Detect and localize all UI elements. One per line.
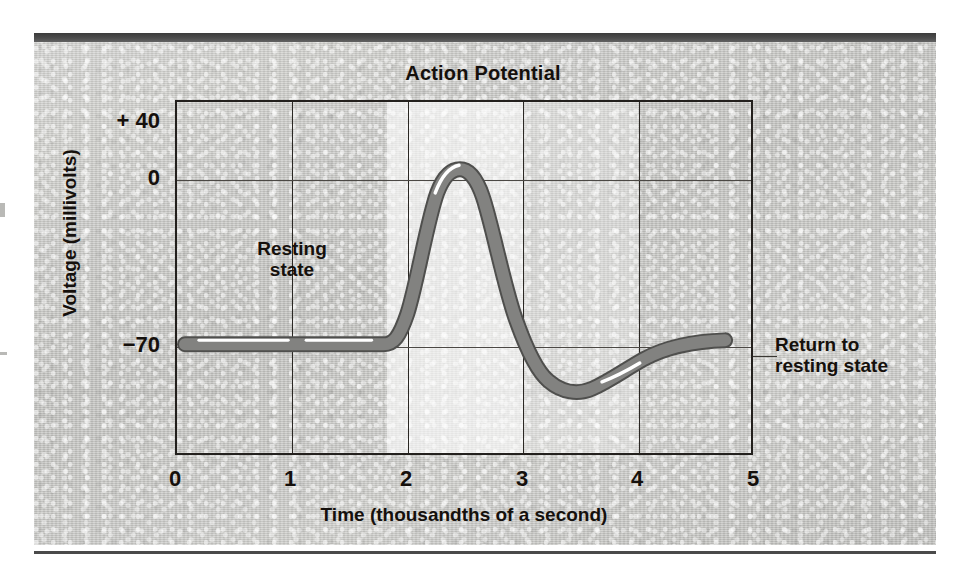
chart-title: Action Potential [0,62,966,85]
y-tick-label-0: 0 [80,165,160,191]
x-tick-label-4: 4 [617,466,657,492]
x-tick-label-0: 0 [155,466,195,492]
y-axis-label: Voltage (millivolts) [59,123,81,343]
annotation-resting-line2: state [212,259,372,280]
annotation-resting-state: Resting state [212,238,372,281]
annotation-leader-line [753,356,777,357]
annotation-resting-line1: Resting [212,238,372,259]
y-tick-label-70: −70 [80,332,160,358]
annotation-return-line2: resting state [775,355,955,376]
x-axis-label: Time (thousandths of a second) [175,504,753,526]
top-rule [34,33,936,42]
x-tick-label-1: 1 [270,466,310,492]
y-tick-label-40: + 40 [80,108,160,134]
scan-artifact-mark [0,203,5,217]
annotation-return-line1: Return to [775,334,955,355]
annotation-return-to-resting-state: Return to resting state [775,334,955,377]
x-tick-label-2: 2 [386,466,426,492]
action-potential-figure: Action Potential Voltage (millivolts) + … [0,0,966,583]
x-tick-label-5: 5 [733,466,773,492]
scan-artifact-mark [0,352,7,355]
x-tick-label-3: 3 [502,466,542,492]
bottom-rule [34,551,936,554]
curve-body [185,169,725,392]
